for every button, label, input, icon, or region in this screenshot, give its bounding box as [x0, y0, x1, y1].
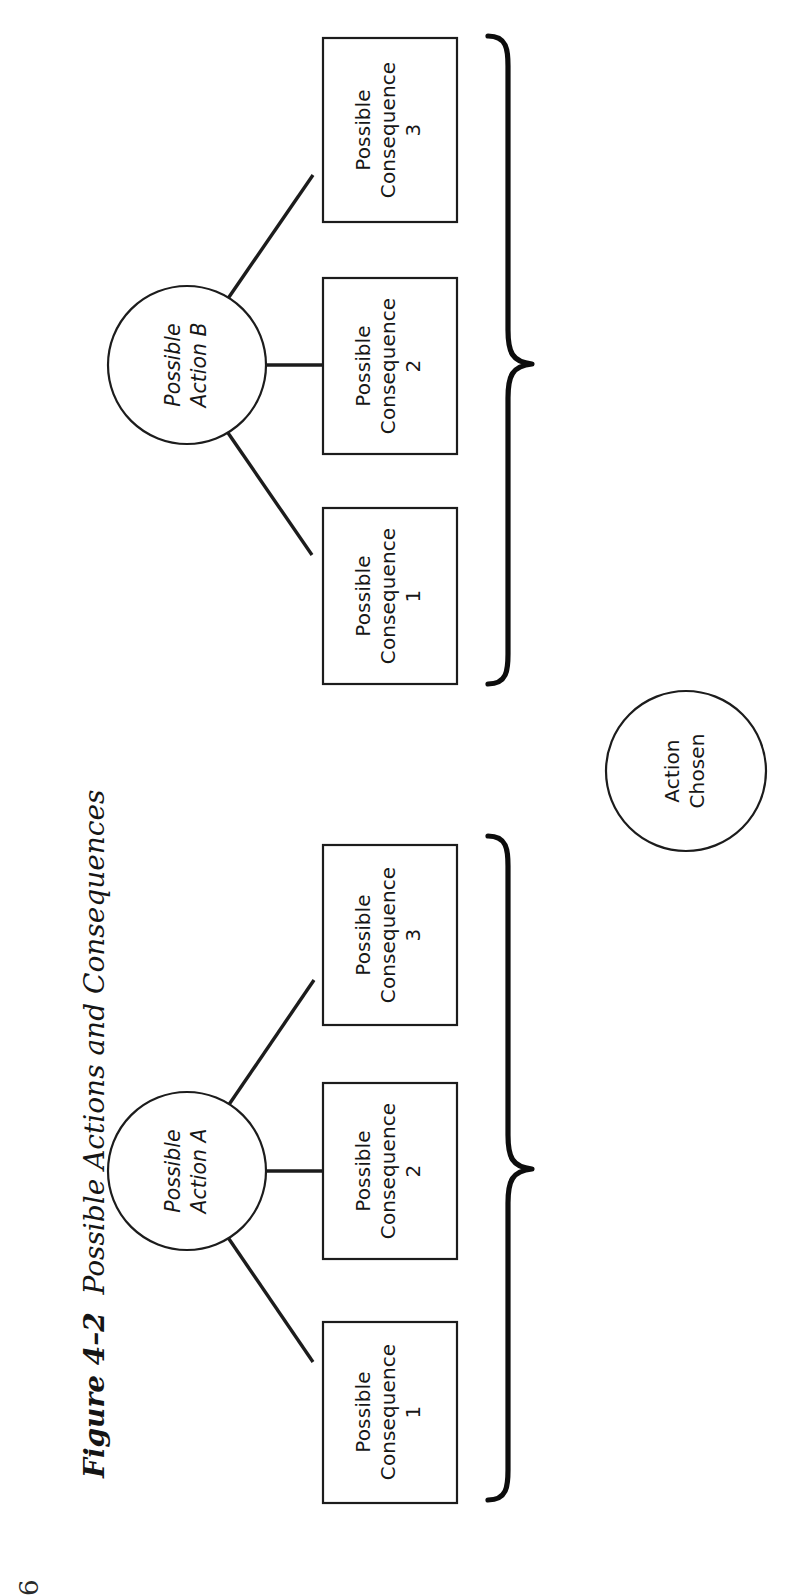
brace-group-b	[488, 36, 532, 684]
figure-root: Possible Action B Possible Consequence 3…	[0, 0, 811, 1595]
decision-tree-diagram: Possible Action B Possible Consequence 3…	[0, 0, 811, 1595]
figure-caption-gap	[78, 1294, 111, 1312]
node-a-consequence-1-label-line2: Consequence	[376, 1344, 400, 1480]
node-a-consequence-1-label-line1: Possible	[351, 1371, 375, 1452]
node-a-consequence-3-label-line1: Possible	[351, 894, 375, 975]
node-possible-action-b-label-line1: Possible	[161, 323, 185, 406]
node-b-consequence-2-label-line1: Possible	[351, 325, 375, 406]
node-a-consequence-2-label-line3: 2	[401, 1165, 425, 1178]
edge-action-a-to-consequence-1	[227, 1236, 313, 1362]
node-b-consequence-1-label-line2: Consequence	[376, 528, 400, 664]
node-action-chosen-label-group: Action Chosen	[660, 734, 709, 809]
page-number: 6	[14, 1579, 44, 1595]
brace-group-a	[488, 836, 532, 1500]
node-a-consequence-2-label-line2: Consequence	[376, 1103, 400, 1239]
node-action-chosen-label-line1: Action	[660, 739, 684, 802]
node-a-consequence-2-label-line1: Possible	[351, 1130, 375, 1211]
edge-action-a-to-consequence-3	[228, 980, 314, 1106]
node-b-consequence-3-label-line1: Possible	[351, 89, 375, 170]
node-b-consequence-2-label-line3: 2	[401, 360, 425, 373]
edge-action-b-to-consequence-1	[226, 430, 312, 555]
figure-caption-number: Figure 4–2	[78, 1312, 111, 1478]
figure-caption: Figure 4–2 Possible Actions and Conseque…	[78, 790, 111, 1478]
node-b-consequence-3-label-line3: 3	[401, 124, 425, 137]
node-possible-action-a-label-line1: Possible	[161, 1129, 185, 1212]
node-action-chosen-label-line2: Chosen	[685, 734, 709, 809]
edge-action-b-to-consequence-3	[227, 175, 313, 300]
node-a-consequence-1-label-line3: 1	[401, 1406, 425, 1419]
node-b-consequence-1-label-line3: 1	[401, 590, 425, 603]
figure-caption-title: Possible Actions and Consequences	[78, 790, 111, 1295]
node-a-consequence-3-label-line2: Consequence	[376, 867, 400, 1003]
node-b-consequence-3-label-line2: Consequence	[376, 62, 400, 198]
node-b-consequence-1-label-line1: Possible	[351, 555, 375, 636]
node-b-consequence-2-label-line2: Consequence	[376, 298, 400, 434]
node-possible-action-b-label-line2: Action B	[187, 322, 211, 409]
node-possible-action-a-label-line2: Action A	[187, 1128, 211, 1215]
node-a-consequence-3-label-line3: 3	[401, 929, 425, 942]
